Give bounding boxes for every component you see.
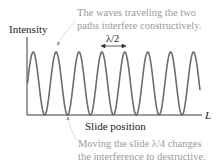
- x-axis-label: Slide position: [85, 121, 146, 132]
- annotation-destructive: Moving the slide λ/4 changes the interfe…: [78, 137, 206, 163]
- intensity-curve: [28, 52, 201, 115]
- y-axis-label: Intensity: [9, 24, 48, 35]
- x-axis-end-label: L: [205, 110, 211, 121]
- annotation-constructive: The waves traveling the two paths interf…: [77, 6, 201, 32]
- annotation-destructive-line1: Moving the slide λ/4 changes: [78, 137, 206, 150]
- wavelength-arrow: [101, 44, 126, 47]
- leader-arrowhead-bottom: [66, 116, 69, 120]
- leader-line-top: [58, 22, 75, 44]
- leader-line-bottom: [68, 118, 78, 142]
- annotation-constructive-line1: The waves traveling the two: [77, 6, 201, 19]
- wavelength-label: λ/2: [106, 34, 119, 45]
- annotation-destructive-line2: the interference to destructive.: [78, 150, 206, 163]
- annotation-constructive-line2: paths interfere constructively.: [77, 19, 201, 32]
